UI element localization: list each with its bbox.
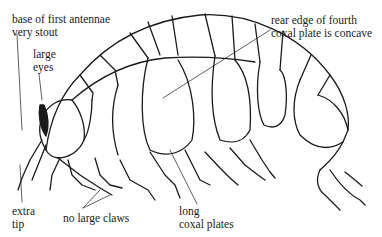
label-no-claws: no large claws	[63, 212, 129, 225]
label-no-claws-line1: no large claws	[63, 212, 129, 225]
legs	[50, 140, 275, 200]
label-extra-tip: extra tip	[12, 205, 35, 230]
label-rear-edge-line2: coxal plate is concave	[271, 27, 372, 40]
label-eyes-line2: eyes	[33, 61, 56, 74]
label-eyes-line1: large	[33, 48, 56, 61]
label-extra-tip-line1: extra	[12, 205, 35, 218]
label-coxal-plates: long coxal plates	[179, 205, 234, 230]
label-antennae-line2: very stout	[12, 26, 110, 39]
label-rear-edge: rear edge of fourth coxal plate is conca…	[271, 14, 372, 39]
amphipod-diagram: base of first antennae very stout large …	[0, 0, 382, 237]
label-extra-tip-line2: tip	[12, 218, 35, 231]
label-coxal-plates-line2: coxal plates	[179, 218, 234, 231]
tail	[318, 170, 365, 210]
label-eyes: large eyes	[33, 48, 56, 73]
dorsal-segment-line	[72, 57, 255, 100]
coxal-plates	[84, 56, 348, 155]
label-antennae: base of first antennae very stout	[12, 13, 110, 38]
label-coxal-plates-line1: long	[179, 205, 234, 218]
label-rear-edge-line1: rear edge of fourth	[271, 14, 372, 27]
label-antennae-line1: base of first antennae	[12, 13, 110, 26]
